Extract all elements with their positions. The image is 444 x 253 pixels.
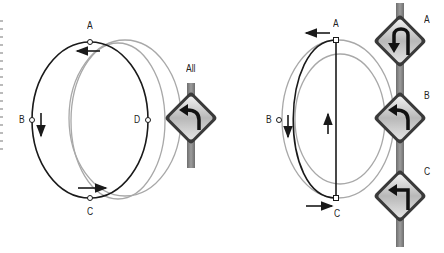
- diagram-stage: A B C D All A B C A B C: [0, 0, 444, 253]
- point-label-b: B: [19, 114, 25, 125]
- sharp-turn-left-sign-icon: [373, 169, 427, 223]
- sign-label-b: B: [424, 90, 430, 101]
- right-figure: [277, 3, 427, 247]
- point-label-c: C: [87, 206, 93, 217]
- u-turn-left-sign-icon: [373, 14, 427, 68]
- curve-left-sign-icon: [373, 91, 427, 145]
- point-label-a: A: [333, 18, 339, 29]
- point-label-a: A: [87, 20, 93, 31]
- sign-caption-all: All: [186, 63, 195, 74]
- sign-label-a: A: [424, 14, 430, 25]
- diagram-svg: [0, 0, 444, 253]
- point-label-b: B: [266, 114, 272, 125]
- curve-left-sign-icon: [164, 91, 218, 145]
- point-label-c: C: [334, 208, 340, 219]
- point-label-d: D: [134, 114, 140, 125]
- sign-label-c: C: [424, 166, 430, 177]
